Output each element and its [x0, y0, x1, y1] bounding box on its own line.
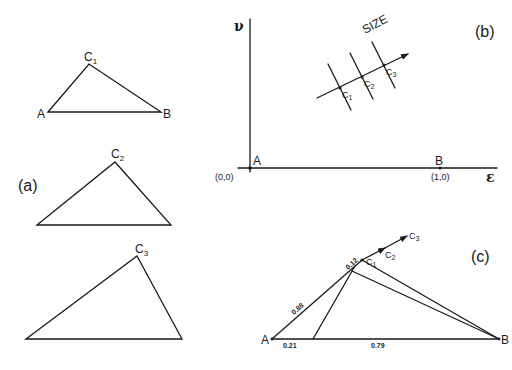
segment-label-ac-long: 0.88: [290, 301, 305, 315]
vertex-a-label: A: [261, 333, 269, 347]
side-cb: [362, 260, 499, 339]
point-c1: [360, 258, 363, 261]
panel-a-label: (a): [18, 177, 38, 194]
panel-a: (a) A B C1 C2 C3: [18, 50, 182, 339]
size-label: SIZE: [360, 12, 390, 37]
unit-coord: (1,0): [431, 172, 450, 182]
triangle-1-vertex-b: B: [163, 107, 171, 121]
arrow-to-c3: [385, 236, 407, 248]
triangle-2-vertex-c: C2: [111, 147, 125, 163]
point-a-label: A: [253, 154, 261, 168]
point-a: [271, 338, 274, 341]
triangle-1-vertex-c: C1: [84, 50, 98, 66]
triangle-2: C2: [37, 147, 171, 225]
panel-c-label: (c): [471, 248, 490, 265]
point-c1-label: C1: [366, 257, 377, 268]
point-c3-label: C3: [409, 231, 420, 242]
segment-label-ab-right: 0.79: [371, 342, 385, 349]
panel-c: (c) A B C1 C2 C3 0.88 0.12 0.21 0.79: [261, 231, 509, 349]
triangle-1-vertex-a: A: [37, 107, 45, 121]
inner-line-right: [352, 271, 499, 339]
point-a: [248, 166, 252, 170]
panel-b: (b) ν ε A (0,0) B (1,0) SIZE C1 C2 C3: [215, 12, 497, 185]
triangle-3-vertex-c: C3: [135, 242, 149, 258]
x-axis-label: ε: [486, 169, 495, 185]
point-c3-label: C3: [386, 67, 397, 78]
point-b: [498, 338, 501, 341]
side-ac: [272, 260, 362, 339]
triangle-2-outline: [37, 162, 171, 225]
triangle-1-outline: [48, 64, 161, 112]
triangle-1: A B C1: [37, 50, 171, 121]
vertex-b-label: B: [501, 333, 509, 347]
triangle-shape-diagram: (a) A B C1 C2 C3 (b) ν ε A (0,0) B: [0, 0, 512, 370]
point-c2-label: C2: [364, 79, 375, 90]
inner-line-left: [313, 266, 355, 339]
panel-b-label: (b): [475, 23, 495, 40]
segment-label-ab-left: 0.21: [283, 342, 297, 349]
origin-coord: (0,0): [215, 172, 234, 182]
point-c2-label: C2: [385, 250, 396, 261]
y-axis-label: ν: [234, 18, 244, 34]
point-b-label: B: [435, 154, 443, 168]
point-c1-label: C1: [342, 90, 353, 101]
triangle-3: C3: [26, 242, 182, 339]
triangle-3-outline: [26, 256, 182, 339]
